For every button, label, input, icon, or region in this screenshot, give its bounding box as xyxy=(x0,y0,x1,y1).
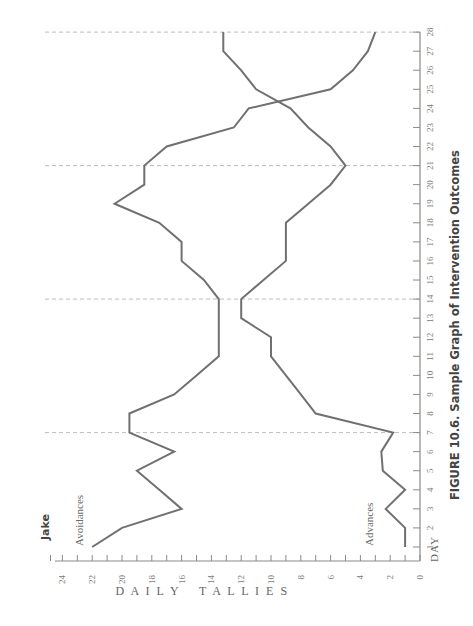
x-tick-label: 3 xyxy=(425,506,435,511)
x-tick-label: 19 xyxy=(425,199,435,209)
x-tick-label: 25 xyxy=(425,84,435,94)
x-tick-label: 10 xyxy=(425,370,435,380)
y-tick-label: 22 xyxy=(87,575,97,584)
x-axis-title: DAY xyxy=(428,536,440,562)
x-tick-label: 15 xyxy=(425,275,435,285)
y-axis-title-daily: D A I L Y xyxy=(115,584,180,598)
y-tick-label: 6 xyxy=(326,575,336,580)
x-tick-label: 26 xyxy=(425,65,435,75)
x-tick-label: 9 xyxy=(425,392,435,397)
y-tick-label: 20 xyxy=(117,575,127,585)
x-tick-label: 14 xyxy=(425,294,435,304)
x-tick-label: 21 xyxy=(425,161,435,170)
x-axis-ticks: 1234567891011121314151617181920212223242… xyxy=(413,27,435,549)
phase-divider-lines xyxy=(45,32,420,432)
x-tick-label: 4 xyxy=(425,487,435,492)
x-tick-label: 18 xyxy=(425,218,435,228)
y-tick-label: 8 xyxy=(296,575,306,580)
subject-title: Jake xyxy=(39,514,52,541)
avoidances-label: Avoidances xyxy=(73,495,85,546)
y-axis-ticks: 024681012141618202224 xyxy=(50,555,425,584)
x-tick-label: 17 xyxy=(425,237,435,247)
x-tick-label: 24 xyxy=(425,103,435,113)
y-tick-label: 18 xyxy=(147,575,157,585)
y-tick-label: 4 xyxy=(355,575,365,580)
x-tick-label: 11 xyxy=(425,352,435,361)
x-tick-label: 28 xyxy=(425,27,435,37)
x-tick-label: 16 xyxy=(425,256,435,266)
x-tick-label: 6 xyxy=(425,449,435,454)
x-tick-label: 2 xyxy=(425,526,435,531)
rotated-line-chart: 024681012141618202224 123456789101112131… xyxy=(0,0,473,626)
advances-line xyxy=(223,32,405,547)
figure-caption: FIGURE 10.6. Sample Graph of Interventio… xyxy=(448,150,462,500)
axes xyxy=(55,32,420,561)
x-tick-label: 13 xyxy=(425,313,435,323)
x-tick-label: 12 xyxy=(425,333,435,342)
avoidances-line xyxy=(92,32,375,547)
y-tick-label: 16 xyxy=(177,575,187,585)
x-tick-label: 22 xyxy=(425,142,435,151)
advances-label: Advances xyxy=(363,503,375,546)
x-tick-label: 5 xyxy=(425,468,435,473)
y-tick-label: 0 xyxy=(415,575,425,580)
data-series xyxy=(92,32,405,547)
x-tick-label: 8 xyxy=(425,411,435,416)
y-tick-label: 12 xyxy=(236,575,246,584)
x-tick-label: 23 xyxy=(425,122,435,131)
x-tick-label: 20 xyxy=(425,180,435,190)
y-tick-label: 10 xyxy=(266,575,276,585)
y-tick-label: 14 xyxy=(206,575,216,585)
y-tick-label: 2 xyxy=(385,575,395,580)
y-axis-title-tallies: T A L L I E S xyxy=(199,584,289,598)
x-tick-label: 7 xyxy=(425,430,435,435)
y-tick-label: 24 xyxy=(57,575,67,585)
x-tick-label: 27 xyxy=(425,46,435,56)
